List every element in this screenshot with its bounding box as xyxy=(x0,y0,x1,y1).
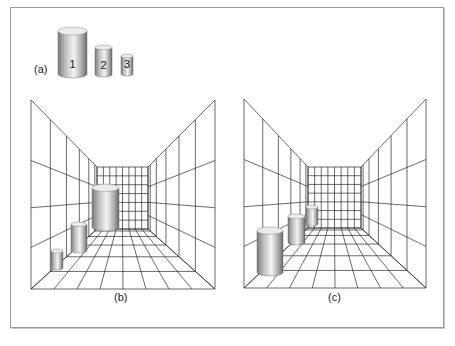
cylinders-a: 123 xyxy=(58,27,133,78)
grid-line xyxy=(31,100,97,167)
grid-line xyxy=(354,228,403,288)
grid-line xyxy=(148,160,215,186)
cylinder-3: 3 xyxy=(121,54,133,76)
grid-line xyxy=(129,229,146,289)
grid-line xyxy=(361,228,426,288)
cylinder-number: 3 xyxy=(124,58,130,70)
cylinder-small xyxy=(306,205,318,226)
panel-b-label: (b) xyxy=(114,291,127,303)
cylinder-small xyxy=(51,249,63,270)
grid-line xyxy=(244,99,308,167)
grid-line xyxy=(148,229,215,289)
panel-c-label: (c) xyxy=(328,291,341,303)
grid-line xyxy=(148,215,215,247)
grid-line xyxy=(31,202,97,207)
grid-line xyxy=(341,228,358,288)
grid-line xyxy=(142,229,192,289)
grid-line xyxy=(361,99,426,167)
cylinder-number: 2 xyxy=(100,59,106,71)
figure-canvas: 123 xyxy=(0,0,455,346)
grid-line xyxy=(335,228,336,288)
grid-line xyxy=(148,100,215,167)
grid-line xyxy=(361,159,426,186)
grid-line xyxy=(348,228,381,288)
cylinder-medium xyxy=(71,222,87,253)
grid-line xyxy=(148,202,215,207)
grid-line xyxy=(31,160,97,186)
cylinder-number: 1 xyxy=(69,58,75,70)
cylinder-large xyxy=(257,227,283,276)
panel-a-label: (a) xyxy=(34,63,47,75)
grid-line xyxy=(244,202,308,207)
grid-line xyxy=(361,215,426,247)
grid-line xyxy=(244,159,308,186)
cylinder-1: 1 xyxy=(58,27,87,78)
cylinder-medium xyxy=(288,214,305,245)
grid-line xyxy=(312,228,328,288)
grid-line xyxy=(100,229,116,289)
cylinder-large xyxy=(92,184,119,231)
cylinder-2: 2 xyxy=(95,45,112,77)
grid-line xyxy=(361,202,426,207)
cylinders-c xyxy=(257,205,318,276)
grid-line xyxy=(123,229,124,289)
grid-line xyxy=(135,229,169,289)
